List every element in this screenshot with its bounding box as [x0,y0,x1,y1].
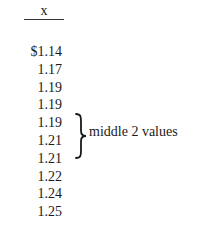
list-item: $1.14 [22,43,62,61]
value-list: $1.14 1.17 1.19 1.19 1.19 1.21 1.21 1.22… [22,43,62,221]
list-item: 1.21 [22,150,62,168]
list-item: 1.21 [22,132,62,150]
middle-values-annotation: middle 2 values [89,124,178,140]
column-header-x: x [24,4,64,20]
list-item: 1.25 [22,203,62,221]
list-item: 1.19 [22,114,62,132]
list-item: 1.24 [22,185,62,203]
list-item: 1.22 [22,168,62,186]
list-item: 1.19 [22,96,62,114]
list-item: 1.17 [22,61,62,79]
list-item: 1.19 [22,79,62,97]
right-curly-brace-icon [74,113,88,159]
